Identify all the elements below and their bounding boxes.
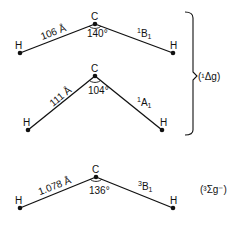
molecule-top: H C H 106 Å 140° 1B1 (15, 11, 177, 55)
atom-h-right-middle (160, 128, 165, 133)
bottom-state-label: (³Σg⁻) (200, 184, 227, 195)
label-h-left-top: H (15, 40, 22, 51)
atom-c-middle (93, 74, 98, 79)
molecule-middle: H C H 111 Å 104° 1A1 (23, 63, 167, 132)
label-c-middle: C (91, 63, 98, 74)
label-c-top: C (91, 11, 98, 22)
angle-middle: 104° (88, 85, 109, 96)
label-h-right-middle: H (160, 117, 167, 128)
group-bracket (185, 12, 197, 135)
state-middle: 1A1 (137, 96, 152, 109)
atom-h-left-bottom (18, 206, 23, 211)
atom-h-left-top (18, 51, 23, 56)
state-bottom: 3B1 (138, 180, 153, 193)
atom-h-left-middle (26, 128, 31, 133)
label-h-left-bottom: H (15, 195, 22, 206)
molecule-bottom: H C H 1.078 Å 136° 3B1 (15, 164, 177, 210)
angle-bottom: 136° (89, 185, 110, 196)
label-h-right-bottom: H (170, 195, 177, 206)
label-h-right-top: H (170, 40, 177, 51)
atom-c-top (93, 22, 98, 27)
atom-c-bottom (94, 175, 99, 180)
group-state-label: (¹Δg) (198, 71, 220, 82)
state-top: 1B1 (137, 27, 152, 40)
label-c-bottom: C (92, 164, 99, 175)
angle-top: 140° (87, 28, 108, 39)
angle-arc-middle (89, 80, 101, 82)
bond-length-top: 106 Å (39, 21, 68, 42)
label-h-left-middle: H (23, 117, 30, 128)
molecular-geometry-diagram: H C H 106 Å 140° 1B1 H C H 111 Å 104° 1A… (0, 0, 240, 225)
atom-h-right-bottom (171, 206, 176, 211)
atom-h-right-top (171, 51, 176, 56)
